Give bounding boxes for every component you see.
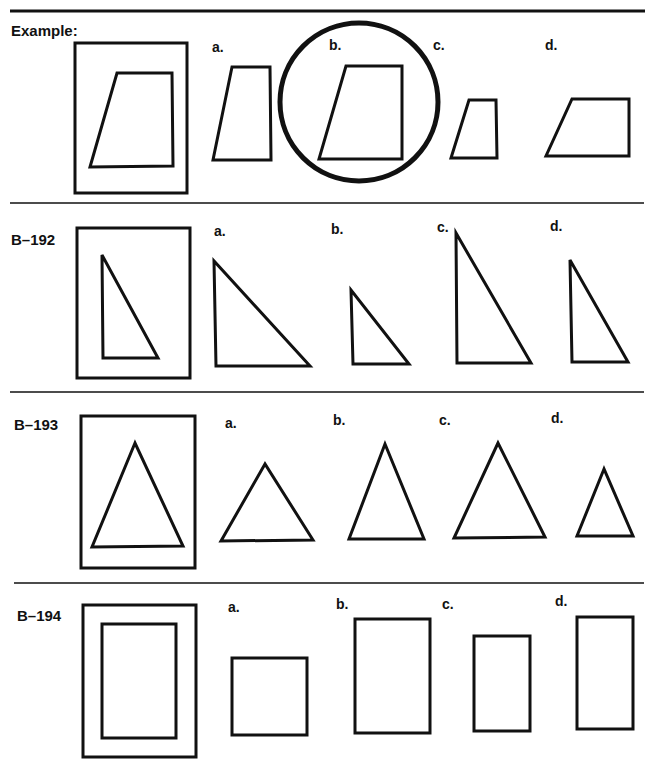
option-a-triangle[interactable]	[214, 261, 310, 366]
option-label-b: b.	[333, 412, 345, 428]
option-d-triangle[interactable]	[570, 260, 628, 362]
row-label-example: Example:	[11, 22, 78, 39]
row-label-b-192: B–192	[11, 231, 55, 248]
option-label-d: d.	[555, 593, 567, 609]
option-label-a: a.	[228, 599, 240, 615]
option-label-c: c.	[437, 219, 449, 235]
option-a-triangle[interactable]	[221, 464, 313, 541]
target-right-triangle	[102, 255, 158, 358]
target-frame	[83, 605, 196, 757]
row-label-b-194: B–194	[17, 607, 62, 624]
option-label-a: a.	[212, 39, 224, 55]
option-label-b: b.	[329, 37, 341, 53]
row-b-192: B–192 a. b. c. d.	[11, 218, 628, 378]
option-b-trapezoid[interactable]	[319, 66, 402, 159]
option-c-trapezoid[interactable]	[451, 100, 497, 158]
row-example: Example: a. b. c. d.	[11, 22, 629, 193]
option-label-b: b.	[331, 221, 343, 237]
option-label-a: a.	[225, 415, 237, 431]
row-label-b-193: B–193	[14, 416, 58, 433]
option-label-c: c.	[439, 412, 451, 428]
option-a-rectangle[interactable]	[232, 658, 307, 735]
target-trapezoid	[90, 73, 173, 167]
option-c-triangle[interactable]	[456, 233, 531, 363]
option-label-d: d.	[545, 37, 557, 53]
row-b-193: B–193 a. b. c. d.	[14, 410, 633, 568]
option-d-triangle[interactable]	[577, 469, 633, 536]
option-label-a: a.	[214, 223, 226, 239]
option-label-d: d.	[551, 410, 563, 426]
option-c-rectangle[interactable]	[474, 636, 530, 731]
target-frame	[77, 228, 190, 378]
option-a-trapezoid[interactable]	[213, 67, 271, 160]
option-d-trapezoid[interactable]	[546, 99, 629, 156]
option-b-rectangle[interactable]	[355, 619, 430, 733]
row-b-194: B–194 a. b. c. d.	[17, 593, 633, 757]
option-label-c: c.	[442, 596, 454, 612]
target-rectangle	[102, 624, 176, 738]
option-b-triangle[interactable]	[351, 290, 409, 364]
option-b-triangle[interactable]	[349, 444, 424, 539]
target-isosceles-triangle	[92, 443, 183, 547]
option-label-b: b.	[336, 596, 348, 612]
answer-circle	[280, 23, 438, 181]
option-label-c: c.	[433, 37, 445, 53]
worksheet-canvas: Example: a. b. c. d. B–192 a. b. c. d. B…	[0, 0, 654, 764]
target-frame	[75, 43, 187, 193]
option-d-rectangle[interactable]	[577, 617, 633, 729]
option-c-triangle[interactable]	[454, 443, 545, 538]
option-label-d: d.	[550, 218, 562, 234]
